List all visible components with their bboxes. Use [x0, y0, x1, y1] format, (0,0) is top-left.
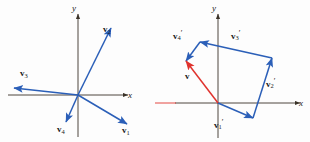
vector-v4-prime — [186, 42, 200, 61]
label-vector-v3: v3 — [20, 69, 28, 79]
left-vectors — [14, 28, 127, 124]
label-vector-v2: v2 — [103, 25, 111, 35]
label-vector-v4-prime: v4′ — [173, 30, 183, 42]
right-y-axis-label: y — [212, 4, 216, 13]
left-y-axis-label: y — [72, 4, 76, 13]
right-vectors — [186, 42, 272, 118]
label-vector-resultant-v: v — [185, 72, 190, 81]
vector-v2 — [78, 28, 111, 95]
vector-v3 — [14, 88, 78, 95]
vector-v1 — [78, 95, 127, 124]
vector-v3-prime — [200, 42, 272, 58]
right-x-axis-label: x — [299, 99, 303, 108]
label-vector-v4: v4 — [57, 125, 65, 135]
figure-canvas — [0, 0, 310, 142]
label-vector-v1: v1 — [122, 126, 130, 136]
label-vector-v3-prime: v3′ — [231, 30, 241, 42]
vector-resultant-v — [186, 61, 218, 103]
vector-addition-figure: x y v1 v2 v3 v4 x y v1′ v2′ v3′ v4′ v — [0, 0, 310, 142]
vector-v1-prime — [218, 103, 253, 118]
label-vector-v2-prime: v2′ — [266, 78, 276, 90]
vector-v4 — [66, 95, 78, 122]
label-vector-v1-prime: v1′ — [214, 119, 224, 131]
left-x-axis-label: x — [128, 91, 132, 100]
